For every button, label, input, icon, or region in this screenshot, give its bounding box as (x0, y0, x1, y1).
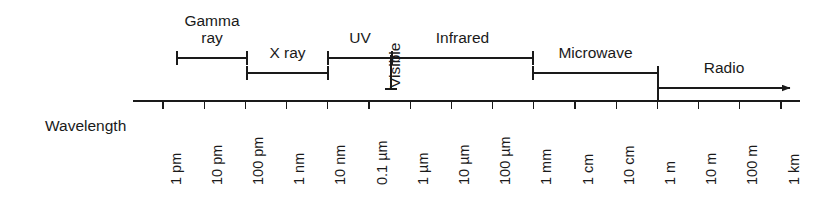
tick-label-8: 100 µm (498, 136, 513, 185)
band-bracket-infrared (392, 51, 533, 65)
tick-label-2: 100 pm (251, 137, 266, 185)
band-label-gamma-ray: Gamma ray (184, 12, 239, 46)
tick-label-4: 10 nm (333, 145, 348, 185)
band-bracket-gamma-ray (177, 51, 247, 65)
tick-label-15: 1 km (787, 154, 802, 185)
electromagnetic-spectrum-figure: Wavelength Gamma rayX rayUVInfraredMicro… (0, 0, 837, 199)
tick-label-7: 10 µm (457, 144, 472, 185)
band-label-visible: Visible (387, 43, 403, 88)
tick-label-1: 10 pm (210, 145, 225, 185)
band-label-x-ray: X ray (269, 44, 305, 61)
band-label-radio: Radio (704, 59, 745, 76)
tick-label-0: 1 pm (169, 153, 184, 185)
band-label-microwave: Microwave (558, 44, 632, 61)
tick-label-6: 1 µm (416, 152, 431, 185)
band-label-uv: UV (349, 29, 371, 46)
tick-label-13: 10 m (704, 153, 719, 185)
tick-label-10: 1 cm (581, 154, 596, 185)
band-bracket-radio (658, 72, 790, 101)
tick-label-11: 10 cm (622, 146, 637, 186)
wavelength-axis-caption: Wavelength (45, 117, 126, 134)
tick-label-12: 1 m (663, 161, 678, 185)
tick-label-5: 0.1 µm (375, 140, 390, 185)
tick-label-9: 1 mm (539, 149, 554, 185)
band-bracket-microwave (533, 66, 658, 80)
tick-label-3: 1 nm (292, 153, 307, 185)
band-label-infrared: Infrared (436, 29, 489, 46)
tick-label-14: 100 m (745, 145, 760, 185)
wavelength-axis (133, 101, 800, 109)
band-bracket-uv (328, 51, 392, 65)
band-bracket-x-ray (247, 66, 328, 80)
